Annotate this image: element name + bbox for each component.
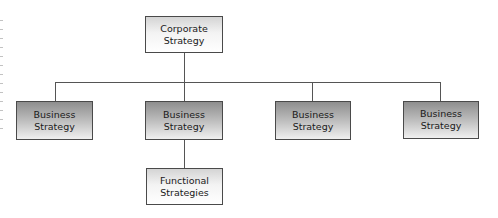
corporate-strategy-box: Corporate Strategy [145, 16, 223, 53]
scan-edge-artifact [0, 20, 3, 130]
business-strategy-label-1: Business [420, 108, 462, 120]
business-strategy-box-1: Business Strategy [16, 101, 93, 140]
functional-strategies-label-1: Functional [160, 175, 209, 187]
connector-to-business-4 [440, 82, 441, 101]
business-strategy-label-2: Strategy [164, 121, 205, 133]
business-strategy-label-2: Strategy [293, 121, 334, 133]
connector-root-down [184, 53, 185, 82]
business-strategy-label-1: Business [163, 109, 205, 121]
business-strategy-label-2: Strategy [34, 121, 75, 133]
business-strategy-box-2: Business Strategy [145, 101, 223, 140]
business-strategy-box-4: Business Strategy [403, 101, 479, 139]
connector-to-functional [184, 140, 185, 168]
connector-horizontal-bus [55, 82, 441, 83]
connector-to-business-2 [184, 82, 185, 101]
business-strategy-label-1: Business [292, 109, 334, 121]
connector-to-business-3 [312, 82, 313, 101]
business-strategy-label-2: Strategy [421, 120, 462, 132]
functional-strategies-label-2: Strategies [160, 187, 209, 199]
business-strategy-label-1: Business [34, 109, 76, 121]
corporate-strategy-label-2: Strategy [164, 35, 205, 47]
connector-to-business-1 [55, 82, 56, 101]
functional-strategies-box: Functional Strategies [146, 168, 223, 205]
corporate-strategy-label-1: Corporate [160, 23, 208, 35]
business-strategy-box-3: Business Strategy [275, 101, 351, 140]
